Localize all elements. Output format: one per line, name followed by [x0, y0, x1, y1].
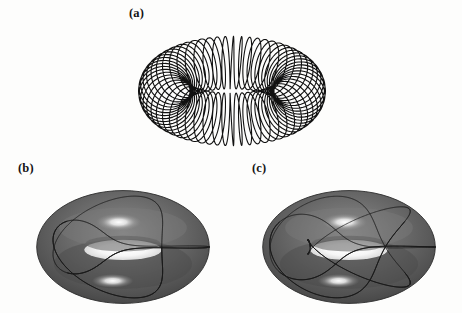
panel-b-shaded-torus: [10, 184, 236, 310]
panel-a-canvas: [96, 24, 368, 158]
panel-b-canvas: [10, 184, 236, 310]
panel-label-a: (a): [129, 6, 144, 21]
figure-root: (a) (b) (c): [0, 0, 462, 313]
panel-a-torus-winding: [96, 24, 368, 158]
panel-label-c: (c): [252, 161, 266, 176]
panel-c-canvas: [236, 184, 462, 310]
specular-highlight-top: [96, 214, 141, 231]
specular-highlight-bottom: [318, 274, 359, 288]
panel-label-b: (b): [18, 161, 34, 176]
winding-curve-a: [139, 36, 326, 145]
specular-highlight-top: [322, 214, 367, 231]
panel-c-shaded-torus: [236, 184, 462, 310]
specular-highlight-bottom: [92, 274, 133, 288]
